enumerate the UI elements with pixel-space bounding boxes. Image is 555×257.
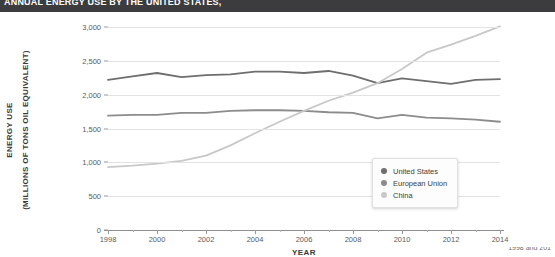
x-axis-tick-minor <box>231 230 232 232</box>
x-axis-tick-mark <box>108 230 109 234</box>
x-axis-tick-label: 2012 <box>443 235 460 244</box>
legend-label: United States <box>393 167 438 176</box>
header-bar: ANNUAL ENERGY USE BY THE UNITED STATES, <box>0 0 555 12</box>
x-axis-tick-mark <box>157 230 158 234</box>
y-axis-tick-mark <box>104 128 108 129</box>
y-axis-title-line2-text: (MILLIONS OF TONS OIL EQUIVALENT) <box>21 50 30 210</box>
gridline <box>108 95 500 96</box>
x-axis-tick-label: 2014 <box>492 235 509 244</box>
page-title: ANNUAL ENERGY USE BY THE UNITED STATES, <box>4 0 222 7</box>
legend-item-european-union: European Union <box>381 177 447 189</box>
gridline <box>108 27 500 28</box>
legend-dot-icon <box>381 168 387 174</box>
y-axis-tick-mark <box>104 94 108 95</box>
y-axis-tick-mark <box>104 60 108 61</box>
x-axis-tick-mark <box>451 230 452 234</box>
gridline <box>108 61 500 62</box>
bottom-caption-text: 1998 and 201 <box>508 247 551 251</box>
y-axis-tick-label: 0 <box>97 226 101 235</box>
legend-item-china: China <box>381 189 447 201</box>
x-axis-tick-mark <box>402 230 403 234</box>
x-axis-tick-label: 2002 <box>198 235 215 244</box>
series-line <box>108 26 500 167</box>
legend-dot-icon <box>381 192 387 198</box>
chart-legend: United States European Union China <box>372 158 458 208</box>
x-axis-tick-minor <box>476 230 477 232</box>
x-axis-tick-mark <box>353 230 354 234</box>
y-axis-tick-label: 3,000 <box>82 23 101 32</box>
y-axis-tick-label: 2,500 <box>82 56 101 65</box>
y-axis-title-line1-text: ENERGY USE <box>5 102 14 157</box>
x-axis-tick-mark <box>500 230 501 234</box>
x-axis-tick-label: 2008 <box>345 235 362 244</box>
y-axis-tick-mark <box>104 27 108 28</box>
x-axis-tick-label: 2006 <box>296 235 313 244</box>
x-axis-tick-label: 1998 <box>100 235 117 244</box>
x-axis-tick-minor <box>280 230 281 232</box>
x-axis-tick-mark <box>304 230 305 234</box>
y-axis-tick-label: 1,500 <box>82 124 101 133</box>
legend-dot-icon <box>381 180 387 186</box>
y-axis-tick-mark <box>104 196 108 197</box>
x-axis-tick-minor <box>133 230 134 232</box>
legend-label: European Union <box>393 179 447 188</box>
x-axis-tick-label: 2010 <box>394 235 411 244</box>
x-axis-tick-minor <box>329 230 330 232</box>
series-line <box>108 110 500 122</box>
x-axis-tick-mark <box>206 230 207 234</box>
bottom-caption: 1998 and 201 <box>0 247 555 254</box>
x-axis-tick-mark <box>255 230 256 234</box>
series-line <box>108 71 500 84</box>
x-axis-tick-minor <box>182 230 183 232</box>
legend-item-united-states: United States <box>381 165 447 177</box>
x-axis-tick-label: 2000 <box>149 235 166 244</box>
x-axis-tick-minor <box>378 230 379 232</box>
y-axis-tick-label: 2,000 <box>82 90 101 99</box>
chart-figure: ENERGY USE (MILLIONS OF TONS OIL EQUIVAL… <box>0 12 555 254</box>
x-axis-tick-label: 2004 <box>247 235 264 244</box>
x-axis-tick-minor <box>427 230 428 232</box>
y-axis-tick-mark <box>104 162 108 163</box>
y-axis-title-line2: (MILLIONS OF TONS OIL EQUIVALENT) <box>16 30 34 230</box>
y-axis-tick-label: 500 <box>88 192 101 201</box>
legend-label: China <box>393 191 413 200</box>
y-axis-tick-label: 1,000 <box>82 158 101 167</box>
gridline <box>108 129 500 130</box>
